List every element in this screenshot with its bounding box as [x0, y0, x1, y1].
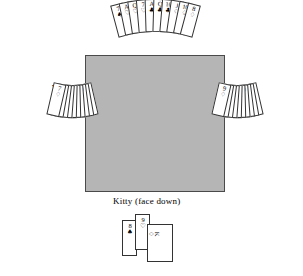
card-table-diagram: North West East Kitty (face down) 7♠A♡Q♡… — [0, 0, 303, 276]
card-corner-index: 9♢ — [216, 83, 230, 99]
diamonds-suit-icon: ♢ — [219, 91, 226, 99]
card-rank: K — [154, 232, 161, 237]
table-surface — [85, 55, 225, 192]
card-corner-index: 8♢ — [185, 4, 199, 20]
diamonds-suit-icon: ♢ — [54, 91, 61, 99]
card-corner-index: K♢ — [147, 228, 161, 240]
card-corner-index: 7♢ — [51, 83, 65, 99]
hearts-suit-icon: ♡ — [140, 223, 146, 230]
seat-label-kitty: Kitty (face down) — [113, 196, 180, 206]
kitty-card-2[interactable]: K♢ — [147, 224, 173, 262]
kitty-pile[interactable]: 8♠9♡K♢ — [120, 212, 190, 272]
diamonds-suit-icon: ♢ — [147, 231, 154, 237]
diamonds-suit-icon: ♢ — [188, 11, 195, 19]
spades-suit-icon: ♠ — [127, 229, 133, 236]
